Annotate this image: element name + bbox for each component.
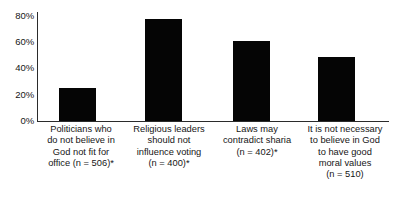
category-label-3-line-4: (n = 510) bbox=[301, 169, 389, 180]
category-label-3-line-1: to believe in God bbox=[301, 135, 389, 146]
category-label-3-line-3: moral values bbox=[301, 158, 389, 169]
category-label-2-line-1: contradict sharia bbox=[213, 135, 301, 146]
bar-chart-figure: 80% 60% 40% 20% 0% Politicians who do no… bbox=[0, 0, 394, 205]
category-label-1-line-1: should not bbox=[125, 135, 213, 146]
category-label-0-line-0: Politicians who bbox=[37, 124, 125, 135]
category-label-1-line-0: Religious leaders bbox=[125, 124, 213, 135]
category-label-2: Laws may contradict sharia (n = 402)* bbox=[213, 124, 301, 158]
category-label-2-line-2: (n = 402)* bbox=[213, 147, 301, 158]
category-label-3-line-0: It is not necessary bbox=[301, 124, 389, 135]
category-label-1-line-2: influence voting bbox=[125, 147, 213, 158]
category-label-3: It is not necessary to believe in God to… bbox=[301, 124, 389, 180]
bar-not-necessary-believe-god-moral bbox=[318, 57, 355, 121]
category-label-3-line-2: to have good bbox=[301, 147, 389, 158]
category-label-0: Politicians who do not believe in God no… bbox=[37, 124, 125, 169]
category-label-0-line-2: God not fit for bbox=[37, 147, 125, 158]
bar-politicians-not-believe-god bbox=[59, 88, 96, 121]
category-label-1: Religious leaders should not influence v… bbox=[125, 124, 213, 169]
bar-religious-leaders-not-influence-voting bbox=[145, 19, 182, 121]
x-axis-category-labels: Politicians who do not believe in God no… bbox=[37, 124, 389, 205]
category-label-1-line-3: (n = 400)* bbox=[125, 158, 213, 169]
category-label-2-line-0: Laws may bbox=[213, 124, 301, 135]
category-label-0-line-1: do not believe in bbox=[37, 135, 125, 146]
bar-laws-may-contradict-sharia bbox=[233, 41, 270, 121]
category-label-0-line-3: office (n = 506)* bbox=[37, 158, 125, 169]
